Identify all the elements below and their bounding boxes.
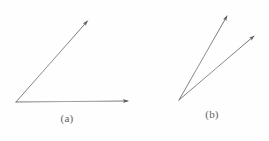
angle-diagram-svg [0,0,269,141]
panel-a-rays [16,21,128,102]
panel-a-diagonal-ray [16,21,88,102]
panel-b-rays [179,16,254,100]
figure-canvas: (a) (b) [0,0,269,141]
panel-a-label: (a) [61,112,74,124]
panel-a-horizontal-ray [16,101,128,102]
panel-b-steep-ray [179,16,227,100]
panel-b-label: (b) [205,108,218,120]
panel-b-shallow-ray [179,36,254,100]
